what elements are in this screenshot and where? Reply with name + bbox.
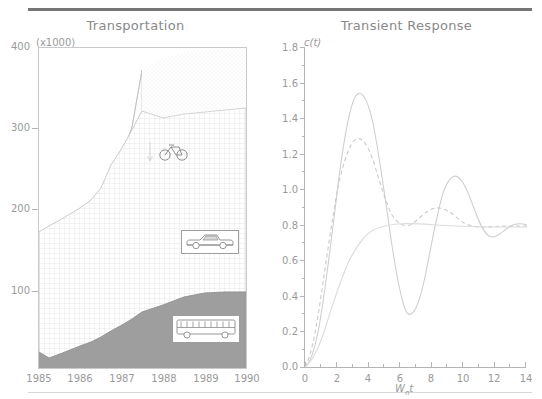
y-tick-label: 400: [2, 41, 30, 52]
y-tick-label: 1.2: [271, 149, 298, 160]
curve-zeta-1-0: [305, 224, 527, 367]
bicycle-pointer-arrow: [146, 142, 154, 168]
car-icon: [182, 231, 238, 253]
x-tick-label: 1987: [103, 373, 141, 384]
x-tick-label: 1985: [20, 373, 58, 384]
x-tick-label: 0: [291, 373, 319, 384]
chart-title-transient-response: Transient Response: [271, 18, 542, 33]
chart-panel-transportation: Transportation (x1000) 400 300 200 100: [0, 0, 271, 399]
x-tick-label: 12: [480, 373, 508, 384]
y-tick-label: 1.4: [271, 113, 298, 124]
bus-legend-box: [172, 315, 240, 343]
y-tick-label: 200: [2, 203, 30, 214]
x-tick-label: 14: [512, 373, 540, 384]
x-tick-label: 1989: [187, 373, 225, 384]
y-tick-label: 300: [2, 122, 30, 133]
y-tick-label: 1.0: [271, 184, 298, 195]
area-series-bicycle-right: [142, 48, 246, 118]
x-tick-label: 8: [417, 373, 445, 384]
bus-icon: [173, 316, 239, 342]
x-tick-label: 1988: [145, 373, 183, 384]
chart-panel-transient-response: Transient Response c(t) 1.8 1.6 1.4 1.2 …: [271, 0, 542, 399]
y-tick-label: 0.0: [271, 361, 298, 372]
curve-zeta-0-1: [305, 93, 527, 367]
x-tick-label: 2: [323, 373, 351, 384]
x-tick-label: 1986: [61, 373, 99, 384]
y-tick-label: 1.8: [271, 42, 298, 53]
y-tick-label: 0.2: [271, 326, 298, 337]
bicycle-icon: [157, 141, 191, 165]
x-tick-label: 1990: [228, 373, 266, 384]
chart-title-transportation: Transportation: [0, 18, 271, 33]
y-tick-label: 0.8: [271, 220, 298, 231]
x-axis-label-wnt: Wnt: [395, 383, 413, 397]
y-tick-label: 0.6: [271, 255, 298, 266]
x-tick-label: 4: [354, 373, 382, 384]
y-tick-label: 0.4: [271, 291, 298, 302]
x-tick-label: 10: [449, 373, 477, 384]
curve-zeta-0-3: [305, 138, 527, 367]
transient-curves-svg: [305, 47, 527, 369]
car-legend-box: [181, 230, 239, 254]
y-tick-label: 100: [2, 285, 30, 296]
y-tick-label: 1.6: [271, 78, 298, 89]
